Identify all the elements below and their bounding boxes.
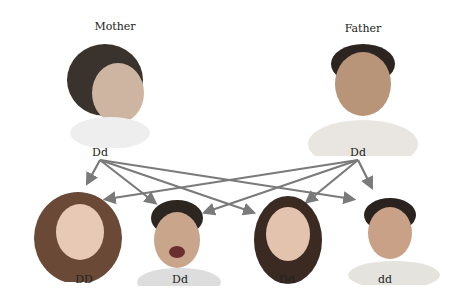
child-3-genotype: Dd [279,273,295,286]
child-1-genotype: DD [75,273,93,286]
child-2-genotype: Dd [172,273,188,286]
child-4-genotype: dd [378,273,392,286]
child-3-photo [248,194,328,284]
child-4-photo [342,195,442,285]
child-1-photo [28,190,128,282]
